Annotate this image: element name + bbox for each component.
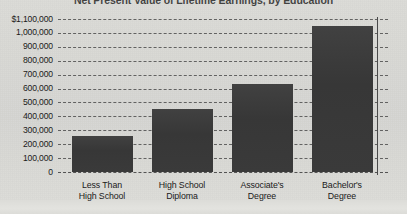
y-axis-tick-label: 400,000: [0, 111, 53, 121]
x-axis-category-label-line: Associate's: [222, 180, 302, 191]
x-axis-category-label: Associate'sDegree: [222, 180, 302, 202]
x-axis-category-label: Bachelor'sDegree: [302, 180, 382, 202]
x-axis-category-label-line: Bachelor's: [302, 180, 382, 191]
x-axis-category-label: Less ThanHigh School: [62, 180, 142, 202]
gridline: [58, 172, 388, 173]
bar-chart: Net Present Value of Lifetime Earnings, …: [0, 0, 407, 214]
x-axis-category-label-line: Degree: [302, 191, 382, 202]
y-axis-tick-label: 0: [0, 167, 53, 177]
x-axis-category-label-line: Diploma: [142, 191, 222, 202]
y-axis-tick-label: $1,100,000: [0, 14, 53, 24]
x-axis-category-label: High SchoolDiploma: [142, 180, 222, 202]
y-axis-tick-label: 700,000: [0, 69, 53, 79]
y-axis-tick-label: 100,000: [0, 153, 53, 163]
plot-area: [58, 14, 378, 174]
gridline: [58, 19, 388, 20]
y-axis-tick-label: 300,000: [0, 125, 53, 135]
x-axis-category-label-line: High School: [142, 180, 222, 191]
y-axis-tick-label: 200,000: [0, 139, 53, 149]
x-axis-category-label-line: Less Than: [62, 180, 142, 191]
plot-right-border: [377, 17, 378, 175]
y-axis-tick-label: 800,000: [0, 55, 53, 65]
bar: [232, 84, 293, 172]
bar: [72, 136, 133, 172]
bar: [312, 26, 373, 172]
x-axis-category-label-line: High School: [62, 191, 142, 202]
y-axis-tick-label: 900,000: [0, 41, 53, 51]
y-axis-tick-label: 600,000: [0, 83, 53, 93]
x-axis-category-label-line: Degree: [222, 191, 302, 202]
y-axis-tick-label: 500,000: [0, 97, 53, 107]
bar: [152, 109, 213, 172]
chart-title: Net Present Value of Lifetime Earnings, …: [0, 0, 407, 6]
y-axis-tick-label: 1,000,000: [0, 27, 53, 37]
